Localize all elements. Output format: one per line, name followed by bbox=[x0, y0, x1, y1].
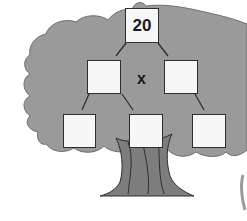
factor-box-left[interactable] bbox=[87, 60, 121, 94]
factor-box-right[interactable] bbox=[164, 60, 198, 94]
multiply-operator: x bbox=[137, 70, 146, 88]
prime-box-right[interactable] bbox=[192, 114, 226, 148]
tree-illustration bbox=[0, 0, 247, 221]
root-number-box: 20 bbox=[125, 8, 159, 43]
prime-box-left[interactable] bbox=[63, 114, 96, 148]
prime-box-middle[interactable] bbox=[129, 114, 163, 148]
